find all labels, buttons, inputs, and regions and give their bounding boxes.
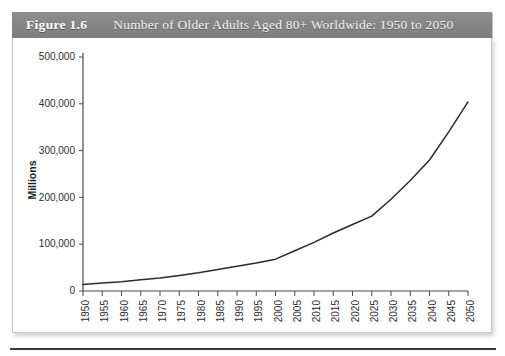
chart-panel — [12, 38, 492, 333]
figure-bottom-rule — [10, 348, 496, 350]
figure-caption-band: Figure 1.6 Number of Older Adults Aged 8… — [12, 12, 492, 38]
figure-title: Number of Older Adults Aged 80+ Worldwid… — [113, 17, 453, 33]
figure-container: Figure 1.6 Number of Older Adults Aged 8… — [0, 0, 505, 356]
figure-number-label: Figure 1.6 — [26, 17, 87, 33]
figure-caption: Figure 1.6 Number of Older Adults Aged 8… — [12, 12, 492, 38]
